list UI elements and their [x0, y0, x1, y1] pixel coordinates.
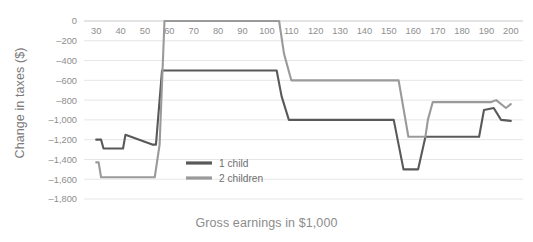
x-axis-ticks-group: 3040506070809010011012013014015016017018…: [91, 26, 519, 36]
x-tick-label: 40: [115, 26, 125, 36]
legend-label-2: 2 children: [219, 173, 263, 184]
x-tick-label: 90: [237, 26, 247, 36]
legend-label-1: 1 child: [219, 158, 249, 169]
y-axis-title: Change in taxes ($): [13, 23, 27, 183]
x-tick-label: 200: [503, 26, 519, 36]
y-tick-label: –1,000: [49, 115, 77, 125]
x-tick-label: 150: [381, 26, 397, 36]
x-tick-label: 140: [357, 26, 373, 36]
x-tick-label: 60: [164, 26, 174, 36]
y-tick-label: –200: [56, 36, 77, 46]
x-tick-label: 180: [454, 26, 470, 36]
y-tick-label: –1,400: [49, 155, 77, 165]
series-line-2: [96, 21, 511, 177]
x-tick-label: 120: [308, 26, 324, 36]
data-series-group: [96, 21, 511, 177]
x-tick-label: 50: [140, 26, 150, 36]
x-tick-label: 100: [259, 26, 275, 36]
y-tick-label: –1,600: [49, 175, 77, 185]
chart-container: Change in taxes ($) Gross earnings in $1…: [0, 0, 533, 242]
y-tick-label: –800: [56, 96, 77, 106]
line-chart-plot: 0–200–400–600–800–1,000–1,200–1,400–1,60…: [0, 0, 533, 242]
x-tick-label: 160: [405, 26, 421, 36]
x-tick-label: 190: [479, 26, 495, 36]
y-tick-label: –1,200: [49, 135, 77, 145]
x-tick-label: 30: [91, 26, 101, 36]
y-tick-label: –600: [56, 76, 77, 86]
x-tick-label: 110: [284, 26, 299, 36]
y-tick-label: –400: [56, 56, 77, 66]
gridlines-group: [84, 21, 523, 199]
y-axis-ticks-group: 0–200–400–600–800–1,000–1,200–1,400–1,60…: [49, 16, 77, 204]
x-axis-title: Gross earnings in $1,000: [0, 216, 533, 230]
x-tick-label: 130: [332, 26, 348, 36]
y-tick-label: –1,800: [49, 194, 77, 204]
x-tick-label: 80: [213, 26, 223, 36]
y-tick-label: 0: [72, 16, 77, 26]
x-tick-label: 70: [189, 26, 199, 36]
x-tick-label: 170: [430, 26, 446, 36]
